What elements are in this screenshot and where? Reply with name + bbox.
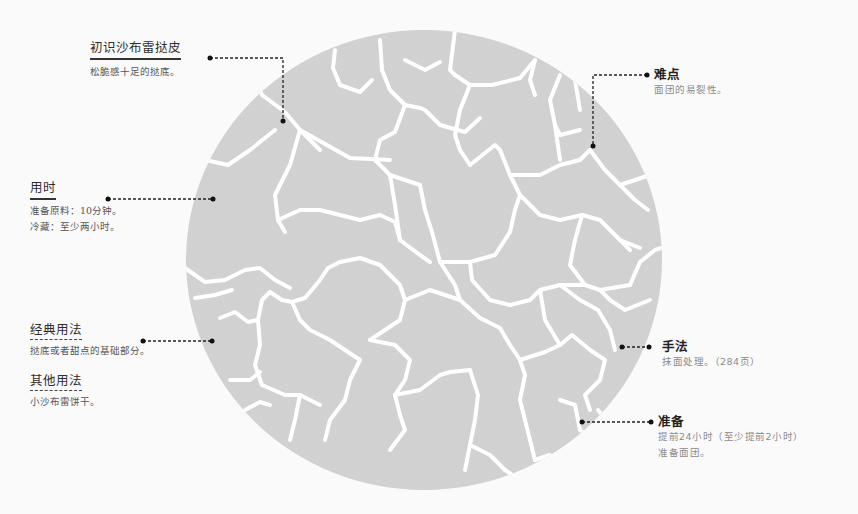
label-preparation-desc-2: 准备面团。 <box>658 445 804 461</box>
label-time-desc-2: 冷藏：至少两小时。 <box>30 219 122 235</box>
label-intro: 初识沙布雷挞皮 松脆感十足的挞底。 <box>90 40 181 80</box>
label-technique: 手法 抹面处理。（284页） <box>662 339 761 370</box>
label-difficulty-title: 难点 <box>654 67 728 82</box>
label-intro-desc: 松脆感十足的挞底。 <box>90 64 181 80</box>
label-difficulty-desc: 面团的易裂性。 <box>654 82 728 98</box>
label-classic-use: 经典用法 挞底或者甜点的基础部分。 <box>30 322 150 359</box>
label-preparation-desc-1: 提前24小时（至少提前2小时） <box>658 429 804 445</box>
label-preparation: 准备 提前24小时（至少提前2小时） 准备面团。 <box>658 414 804 461</box>
label-preparation-title: 准备 <box>658 414 804 429</box>
label-time-title: 用时 <box>30 180 56 200</box>
label-other-use: 其他用法 小沙布雷饼干。 <box>30 373 100 410</box>
label-time-desc-1: 准备原料：10分钟。 <box>30 203 122 219</box>
label-other-use-title: 其他用法 <box>30 373 82 391</box>
label-technique-title: 手法 <box>662 339 761 354</box>
label-classic-use-desc: 挞底或者甜点的基础部分。 <box>30 343 150 359</box>
label-time: 用时 准备原料：10分钟。 冷藏：至少两小时。 <box>30 180 122 235</box>
label-other-use-desc: 小沙布雷饼干。 <box>30 394 100 410</box>
label-intro-title: 初识沙布雷挞皮 <box>90 40 181 60</box>
label-classic-use-title: 经典用法 <box>30 322 82 340</box>
label-difficulty: 难点 面团的易裂性。 <box>654 67 728 98</box>
label-technique-desc: 抹面处理。（284页） <box>662 354 761 370</box>
